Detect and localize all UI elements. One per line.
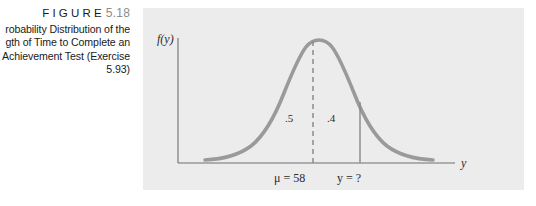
y-axis-label: f(y)	[157, 32, 174, 47]
area-label-left: .5	[285, 112, 293, 124]
density-curve	[205, 40, 433, 160]
caption-line: robability Distribution of the	[0, 23, 130, 36]
normal-distribution-plot	[143, 8, 524, 190]
figure-header: FIGURE5.18	[0, 6, 130, 20]
figure-caption: FIGURE5.18 robability Distribution of th…	[0, 6, 130, 77]
x-axis-label: y	[461, 156, 466, 171]
caption-line: gth of Time to Complete an	[0, 36, 130, 49]
figure-label: FIGURE	[42, 7, 105, 19]
area-label-right: .4	[327, 112, 335, 124]
mean-value-label: μ = 58	[274, 171, 305, 186]
figure-panel: f(y) y .5 .4 μ = 58 y = ?	[143, 8, 524, 190]
unknown-value-label: y = ?	[337, 171, 361, 186]
figure-number: 5.18	[106, 6, 130, 20]
caption-line: 5.93)	[0, 63, 130, 76]
caption-line: Achievement Test (Exercise	[0, 50, 130, 63]
